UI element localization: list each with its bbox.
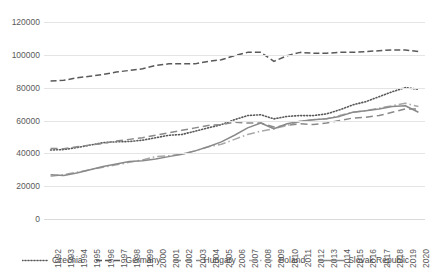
line-chart: 020000400006000080000100000120000 199219… — [0, 0, 431, 279]
gridline — [44, 219, 425, 220]
x-axis: 1992199319941995199619971998199920002001… — [44, 221, 425, 251]
legend-swatch-dotted — [22, 256, 48, 265]
legend-label: Czechia — [52, 256, 83, 265]
series-line-hungary — [51, 109, 419, 149]
gridline — [44, 121, 425, 122]
legend-item-slovak-republic[interactable]: Slovak Republic — [318, 256, 409, 265]
gridline — [44, 153, 425, 154]
legend-item-hungary[interactable]: Hungary — [174, 256, 236, 265]
series-line-czechia — [51, 88, 419, 150]
gridline — [44, 55, 425, 56]
y-tick-label: 80000 — [0, 83, 40, 92]
legend-label: Poland — [279, 256, 305, 265]
legend-item-poland[interactable]: Poland — [249, 256, 305, 265]
gridline — [44, 88, 425, 89]
legend-label: Germany — [126, 256, 161, 265]
gridline — [44, 186, 425, 187]
series-line-slovak-republic — [51, 106, 419, 176]
legend-swatch-solid — [318, 256, 344, 265]
legend-item-germany[interactable]: Germany — [96, 256, 161, 265]
y-tick-label: 100000 — [0, 51, 40, 60]
legend-item-czechia[interactable]: Czechia — [22, 256, 83, 265]
y-axis: 020000400006000080000100000120000 — [0, 0, 40, 279]
legend-swatch-longdash — [174, 256, 200, 265]
legend-swatch-dashdot — [249, 256, 275, 265]
legend-swatch-dashed — [96, 256, 122, 265]
plot-area — [44, 22, 425, 219]
legend-label: Slovak Republic — [348, 256, 409, 265]
y-tick-label: 0 — [0, 215, 40, 224]
y-tick-label: 60000 — [0, 116, 40, 125]
y-tick-label: 40000 — [0, 149, 40, 158]
gridline — [44, 22, 425, 23]
legend-label: Hungary — [204, 256, 236, 265]
y-tick-label: 120000 — [0, 18, 40, 27]
legend: CzechiaGermanyHungaryPolandSlovak Republ… — [0, 252, 431, 268]
y-tick-label: 20000 — [0, 182, 40, 191]
